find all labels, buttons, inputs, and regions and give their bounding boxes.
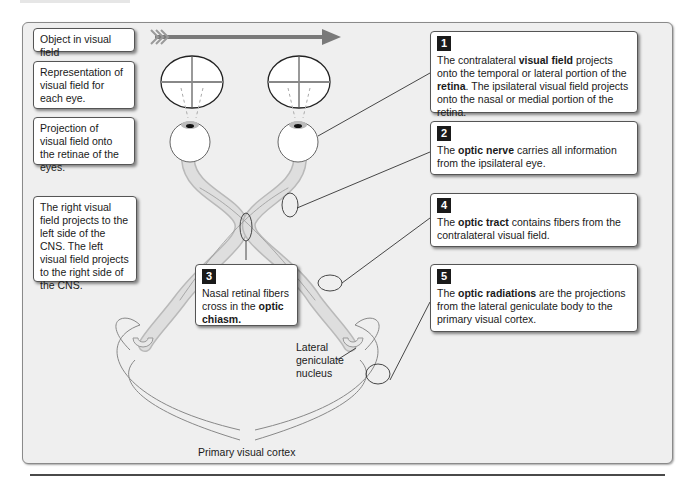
callout-term: retina	[437, 80, 466, 92]
callout-text: The contralateral	[437, 54, 519, 66]
callout-term: optic nerve	[458, 144, 514, 156]
callout-term: optic radiations	[458, 287, 536, 299]
left-eye-field-icon	[161, 56, 223, 118]
callout-text: . The ipsilateral visual field projects …	[437, 80, 628, 118]
label-representation: Representation of visual field for each …	[33, 61, 135, 109]
callout-number-badge: 4	[437, 198, 451, 213]
callout-3: 3 Nasal retinal fibers cross in the opti…	[195, 264, 298, 326]
callout-term: visual field	[519, 54, 573, 66]
callout-number-badge: 5	[437, 269, 451, 284]
label-text: The right visual field projects to the l…	[40, 201, 129, 291]
label-primary-visual-cortex: Primary visual cortex	[198, 446, 295, 459]
callout-text: The	[437, 144, 458, 156]
callout-text: The	[437, 287, 458, 299]
left-eye-icon	[170, 121, 210, 162]
label-object-in-visual-field: Object in visual field	[33, 28, 135, 52]
callout-term: optic tract	[458, 216, 509, 228]
callout-5: 5 The optic radiations are the projectio…	[430, 264, 638, 332]
callout-1: 1 The contralateral visual field project…	[430, 31, 638, 113]
callout-number-badge: 1	[437, 36, 451, 51]
label-text: Representation of visual field for each …	[40, 66, 123, 104]
label-lateral-geniculate-nucleus: Lateral geniculate nucleus	[296, 341, 356, 380]
callout-number-badge: 3	[202, 269, 216, 284]
right-eye-icon	[278, 121, 318, 162]
leader-lines	[240, 73, 430, 384]
label-projection: Projection of visual field onto the reti…	[33, 117, 135, 165]
label-crossing: The right visual field projects to the l…	[33, 196, 137, 282]
callout-text: The	[437, 216, 458, 228]
callout-number-badge: 2	[437, 126, 451, 141]
bottom-rule	[30, 474, 665, 476]
callout-4: 4 The optic tract contains fibers from t…	[430, 193, 638, 247]
object-arrow-icon	[151, 29, 341, 45]
right-eye-field-icon	[268, 56, 330, 118]
callout-2: 2 The optic nerve carries all informatio…	[430, 121, 638, 175]
